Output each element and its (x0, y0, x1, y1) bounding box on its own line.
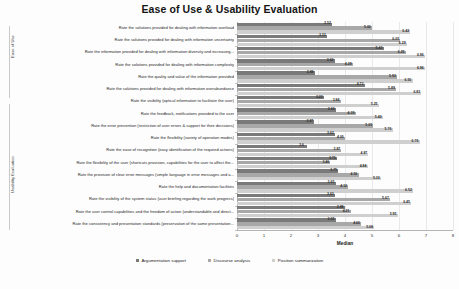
bar-value-label: 5.05 (364, 124, 372, 127)
bar-value-label: 2.6 (298, 144, 304, 147)
category-label: Rate the feedback, notifications provide… (29, 108, 234, 120)
bar-value-label: 5.95 (389, 213, 397, 216)
bar-row: Rate the error prevention (restriction o… (237, 120, 453, 132)
bar-2 (237, 226, 374, 229)
category-label: Rate the flexibility (variety of operati… (29, 132, 234, 144)
bar-row: Rate the solutions provided for dealing … (237, 83, 453, 95)
bar-2 (237, 214, 398, 217)
chart-legend: Argumentation supportDiscourse analysisP… (0, 258, 459, 263)
x-axis-tick-label: 0 (230, 233, 244, 238)
y-axis-group-label-ease-of-use: Ease of Use (10, 27, 15, 67)
bar-value-label: 5.25 (370, 103, 378, 106)
bar-value-label: 3.33 (318, 34, 326, 37)
bar-value-label: 4.12 (339, 185, 347, 188)
bar-1 (237, 185, 348, 188)
x-axis-tick-label: 7 (419, 233, 433, 238)
chart-container: Ease of Use & Usability Evaluation Ease … (0, 0, 459, 289)
bar-value-label: 3.63 (326, 132, 334, 135)
category-label: Rate the information provided for dealin… (29, 46, 234, 58)
legend-item-2[interactable]: Position summarization (272, 258, 323, 263)
bar-1 (237, 39, 400, 42)
x-axis-tick-label: 5 (365, 233, 379, 238)
bar-row: Rate the flexibility (variety of operati… (237, 132, 453, 144)
bar-value-label: 3.65 (327, 181, 335, 184)
bar-value-label: 4.87 (359, 152, 367, 155)
bar-value-label: 5.33 (372, 177, 380, 180)
category-label: Rate the solutions provided for dealing … (29, 83, 234, 95)
bar-value-label: 5.67 (381, 197, 389, 200)
bar-0 (237, 96, 324, 99)
bar-1 (237, 100, 341, 103)
bar-1 (237, 137, 345, 140)
bar-2 (237, 202, 411, 205)
bar-value-label: 3.62 (326, 59, 334, 62)
bar-0 (237, 23, 332, 26)
bar-0 (237, 145, 307, 148)
bar-0 (237, 182, 336, 185)
plot-area: Rate the solutions provided for dealing … (237, 22, 453, 230)
x-axis-tick-label: 8 (446, 233, 459, 238)
bar-1 (237, 173, 359, 176)
y-axis-tick (235, 230, 237, 231)
chart-title: Ease of Use & Usability Evaluation (0, 3, 459, 15)
bar-1 (237, 51, 406, 54)
bar-1 (237, 112, 356, 115)
bar-value-label: 5.08 (365, 226, 373, 229)
y-axis-group-tick-0 (9, 26, 10, 98)
bar-2 (237, 177, 381, 180)
legend-label: Discourse analysis (214, 258, 251, 263)
x-axis-tick-label: 6 (392, 233, 406, 238)
legend-swatch-icon (272, 259, 275, 262)
bar-value-label: 6.96 (416, 67, 424, 70)
bar-row: Rate the feedback, notifications provide… (237, 108, 453, 120)
bar-0 (237, 47, 384, 50)
bar-1 (237, 75, 397, 78)
bar-0 (237, 59, 335, 62)
bar-value-label: 6.05 (391, 38, 399, 41)
legend-swatch-icon (136, 259, 139, 262)
bar-0 (237, 84, 365, 87)
bar-0 (237, 206, 345, 209)
bar-0 (237, 108, 336, 111)
bar-value-label: 3.66 (327, 108, 335, 111)
x-axis-line (237, 230, 453, 231)
bar-value-label: 4.21 (342, 210, 350, 213)
bar-2 (237, 153, 368, 156)
x-axis-tick-label: 2 (284, 233, 298, 238)
bar-2 (237, 189, 413, 192)
bar-value-label: 6.50 (404, 79, 412, 82)
category-label: Rate the solutions provided for dealing … (29, 22, 234, 34)
bar-value-label: 4.60 (352, 222, 360, 225)
bar-row: Rate the user control capabilities and t… (237, 206, 453, 218)
bar-row: Rate the provision of clear error messag… (237, 169, 453, 181)
bar-value-label: 3.87 (332, 148, 340, 151)
bar-value-label: 4.39 (347, 112, 355, 115)
legend-label: Argumentation support (141, 258, 185, 263)
bar-0 (237, 194, 335, 197)
bar-1 (237, 210, 351, 213)
bar-0 (237, 35, 327, 38)
bar-0 (237, 218, 336, 221)
category-label: Rate the error prevention (restriction o… (29, 120, 234, 132)
bar-0 (237, 133, 335, 136)
category-label: Rate the ease of recognition (easy ident… (29, 144, 234, 156)
legend-item-0[interactable]: Argumentation support (136, 258, 186, 263)
bar-2 (237, 79, 413, 82)
bar-value-label: 5.00 (363, 26, 371, 29)
bar-value-label: 3.63 (326, 193, 334, 196)
bar-value-label: 4.00 (336, 136, 344, 139)
bar-0 (237, 120, 314, 123)
bar-1 (237, 198, 390, 201)
legend-item-1[interactable]: Discourse analysis (208, 258, 250, 263)
category-label: Rate the quality and value of the inform… (29, 71, 234, 83)
bar-row: Rate the solutions provided for dealing … (237, 59, 453, 71)
bar-row: Rate the information provided for dealin… (237, 46, 453, 58)
bar-value-label: 3.65 (327, 218, 335, 221)
category-label: Rate the user control capabilities and t… (29, 206, 234, 218)
x-axis-tick-label: 4 (338, 233, 352, 238)
bar-1 (237, 124, 373, 127)
bar-row: Rate the consistency and presentation st… (237, 218, 453, 230)
bar-value-label: 6.25 (397, 51, 405, 54)
bar-value-label: 3.52 (323, 22, 331, 25)
x-axis-tick-label: 1 (257, 233, 271, 238)
